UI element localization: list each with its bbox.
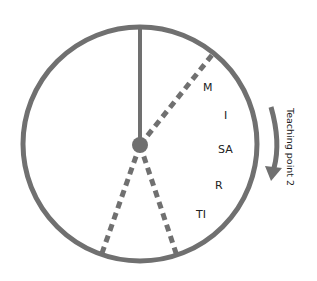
direction-arrow-shaft	[271, 107, 277, 168]
label-r: R	[215, 179, 223, 192]
label-sa: SA	[218, 143, 233, 156]
dashed-radius-lower-left	[101, 145, 140, 256]
dashed-radius-upper-right	[140, 55, 212, 145]
label-m: M	[203, 81, 213, 94]
direction-arrow-head-icon	[265, 166, 282, 181]
teaching-cycle-diagram: M I SA R TI Teaching point 2	[0, 0, 317, 281]
teaching-point-label: Teaching point 2	[285, 107, 296, 186]
label-i: I	[224, 109, 227, 122]
label-ti: TI	[195, 208, 206, 221]
dashed-radius-lower-right	[140, 145, 177, 256]
center-hub	[132, 137, 148, 153]
